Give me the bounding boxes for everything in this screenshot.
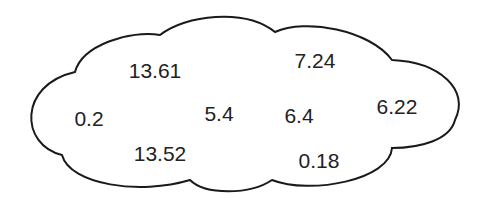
value-label: 6.4	[284, 105, 313, 126]
value-label: 5.4	[204, 103, 233, 124]
value-label: 0.18	[299, 150, 340, 171]
value-label: 13.52	[134, 143, 187, 164]
value-label: 13.61	[129, 60, 182, 81]
cloud-diagram: 13.61 7.24 0.2 5.4 6.4 6.22 13.52 0.18	[0, 0, 484, 198]
value-label: 0.2	[74, 108, 103, 129]
value-label: 7.24	[295, 50, 336, 71]
value-label: 6.22	[377, 96, 418, 117]
